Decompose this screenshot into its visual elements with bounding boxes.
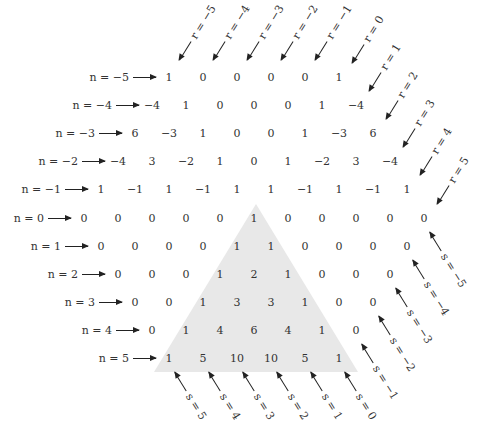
binomial-value: 0 (132, 295, 139, 308)
binomial-value: 1 (336, 183, 343, 196)
binomial-value: 0 (98, 239, 105, 252)
binomial-value: 6 (370, 127, 377, 140)
row-label-n: n = 3 (65, 295, 95, 308)
row-label-n: n = −2 (38, 155, 78, 168)
pascal-diagram: 100001n = −5−410001−4n = −46−31001−36n =… (0, 0, 478, 431)
binomial-value: 0 (149, 267, 156, 280)
binomial-value: 1 (234, 183, 241, 196)
binomial-value: 0 (200, 239, 207, 252)
binomial-value: 0 (319, 211, 326, 224)
binomial-value: 0 (183, 267, 190, 280)
binomial-value: 0 (370, 295, 377, 308)
right-arrow-icon (48, 218, 71, 219)
binomial-value: −3 (331, 127, 347, 140)
binomial-value: −4 (144, 99, 160, 112)
binomial-value: 1 (302, 127, 309, 140)
binomial-value: 0 (370, 239, 377, 252)
binomial-value: 5 (200, 352, 207, 365)
binomial-value: 1 (98, 183, 105, 196)
binomial-value: 1 (183, 99, 190, 112)
binomial-value: 1 (183, 323, 190, 336)
binomial-value: 0 (268, 127, 275, 140)
row-label-n: n = −1 (21, 183, 61, 196)
binomial-value: 0 (234, 127, 241, 140)
binomial-value: 0 (353, 323, 360, 336)
binomial-value: 1 (166, 352, 173, 365)
binomial-value: 1 (234, 239, 241, 252)
binomial-value: 0 (251, 155, 258, 168)
binomial-value: 0 (387, 267, 394, 280)
right-arrow-icon (133, 77, 156, 78)
binomial-value: −1 (297, 183, 313, 196)
binomial-value: −1 (195, 183, 211, 196)
binomial-value: 0 (183, 211, 190, 224)
binomial-value: 1 (251, 211, 258, 224)
binomial-value: 0 (353, 211, 360, 224)
binomial-value: 0 (285, 211, 292, 224)
binomial-value: 1 (336, 71, 343, 84)
binomial-value: 1 (268, 239, 275, 252)
binomial-value: 0 (115, 267, 122, 280)
binomial-value: 0 (81, 211, 88, 224)
binomial-value: 3 (353, 155, 360, 168)
row-label-n: n = 2 (48, 267, 78, 280)
row-label-n: n = −4 (72, 99, 112, 112)
binomial-value: 6 (132, 127, 139, 140)
right-arrow-icon (116, 105, 139, 106)
binomial-value: 0 (149, 211, 156, 224)
binomial-value: 0 (336, 295, 343, 308)
binomial-value: 0 (234, 71, 241, 84)
binomial-value: 0 (251, 99, 258, 112)
binomial-value: 10 (230, 352, 244, 365)
binomial-value: 5 (302, 352, 309, 365)
row-label-n: n = −5 (89, 71, 129, 84)
binomial-value: −4 (348, 99, 364, 112)
binomial-value: 1 (319, 99, 326, 112)
row-label-n: n = −3 (55, 127, 95, 140)
binomial-value: −2 (314, 155, 330, 168)
binomial-value: 1 (200, 127, 207, 140)
binomial-value: 0 (166, 295, 173, 308)
binomial-value: 0 (302, 239, 309, 252)
binomial-value: 0 (285, 99, 292, 112)
binomial-value: 0 (149, 323, 156, 336)
binomial-value: 1 (319, 323, 326, 336)
binomial-value: 0 (217, 99, 224, 112)
binomial-value: 0 (268, 71, 275, 84)
right-arrow-icon (133, 358, 156, 359)
binomial-value: 0 (166, 239, 173, 252)
binomial-value: −2 (178, 155, 194, 168)
binomial-value: 10 (264, 352, 278, 365)
binomial-value: −4 (110, 155, 126, 168)
row-label-n: n = 4 (82, 323, 112, 336)
binomial-value: 0 (421, 211, 428, 224)
binomial-value: 1 (336, 352, 343, 365)
binomial-value: −4 (382, 155, 398, 168)
binomial-value: 3 (234, 295, 241, 308)
binomial-value: 6 (251, 323, 258, 336)
row-label-n: n = 5 (99, 352, 129, 365)
binomial-value: 0 (302, 71, 309, 84)
binomial-value: −1 (127, 183, 143, 196)
binomial-value: 1 (217, 267, 224, 280)
binomial-value: 0 (319, 267, 326, 280)
binomial-value: 0 (132, 239, 139, 252)
binomial-value: −1 (365, 183, 381, 196)
binomial-value: 1 (166, 183, 173, 196)
right-arrow-icon (116, 330, 139, 331)
binomial-value: 3 (268, 295, 275, 308)
row-label-n: n = 0 (14, 211, 44, 224)
binomial-value: 1 (166, 71, 173, 84)
binomial-value: 0 (387, 211, 394, 224)
right-arrow-icon (82, 274, 105, 275)
right-arrow-icon (99, 302, 122, 303)
binomial-value: 0 (200, 71, 207, 84)
right-arrow-icon (65, 189, 88, 190)
binomial-value: 0 (336, 239, 343, 252)
binomial-value: 1 (217, 155, 224, 168)
binomial-value: 1 (200, 295, 207, 308)
binomial-value: 1 (302, 295, 309, 308)
binomial-value: 0 (115, 211, 122, 224)
binomial-value: 0 (353, 267, 360, 280)
binomial-value: 0 (217, 211, 224, 224)
